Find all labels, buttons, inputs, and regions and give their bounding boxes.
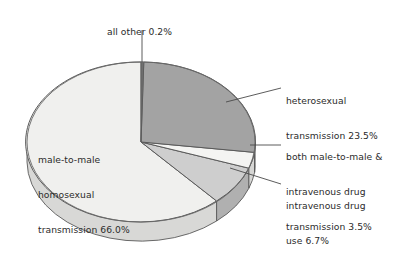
label-both-line1: both male-to-male & <box>286 151 382 163</box>
label-m2m-line1: male-to-male <box>38 154 130 166</box>
label-male-to-male: male-to-male homosexual transmission 66.… <box>38 131 130 247</box>
label-m2m-line2: homosexual <box>38 189 130 201</box>
label-intravenous-drug: intravenous drug use 6.7% <box>286 177 366 258</box>
label-ivdrug-line1: intravenous drug <box>286 200 366 212</box>
label-heterosexual-line1: heterosexual <box>286 95 378 107</box>
label-all-other: all other 0.2% <box>101 14 172 37</box>
label-all-other-line1: all other 0.2% <box>107 26 172 37</box>
label-ivdrug-line2: use 6.7% <box>286 235 366 247</box>
label-m2m-line3: transmission 66.0% <box>38 224 130 236</box>
